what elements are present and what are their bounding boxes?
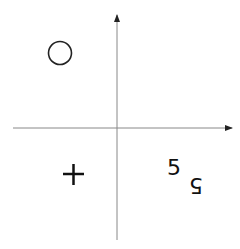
- digit-five: 5: [167, 157, 181, 179]
- circle-icon: [49, 42, 72, 65]
- reflected-digit-five: 5: [189, 174, 203, 196]
- mirrored-five: 5: [189, 174, 203, 196]
- coordinate-diagram: [0, 0, 240, 249]
- plus-icon: [63, 164, 84, 185]
